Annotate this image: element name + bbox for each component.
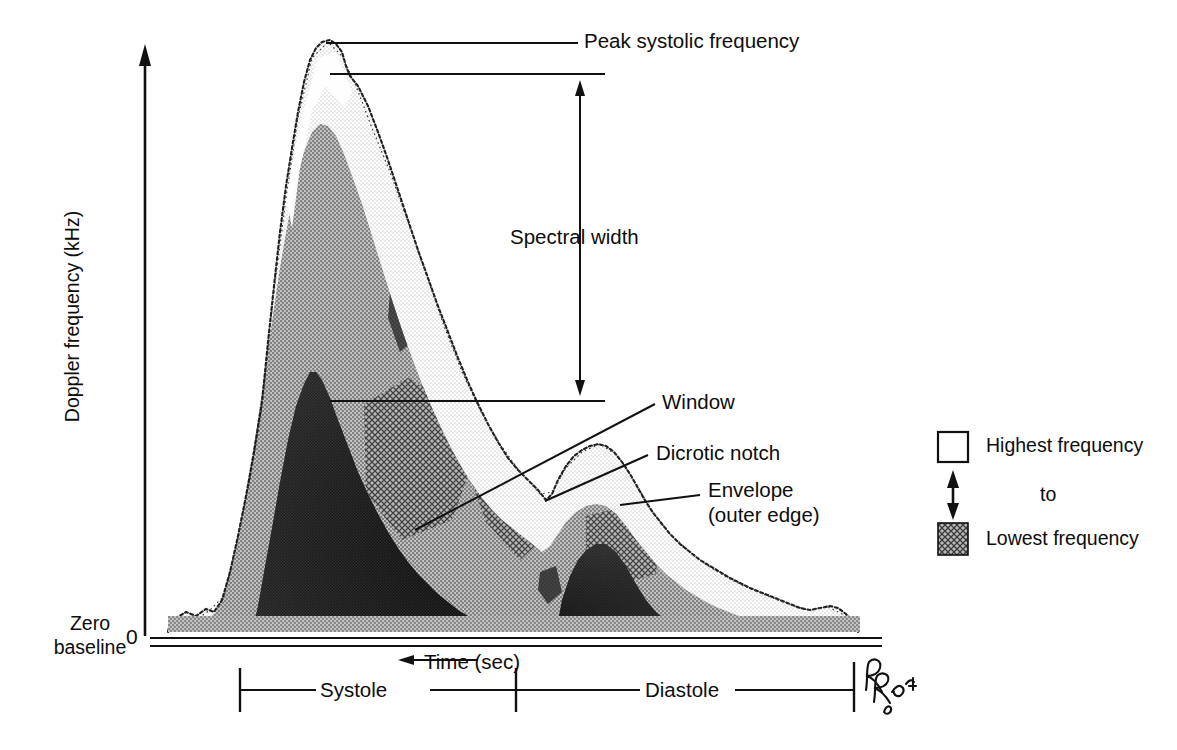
spectral-width-arrow-down	[575, 380, 585, 396]
mid-frequency-band	[150, 20, 890, 640]
zero-baseline-line1: Zero	[70, 612, 110, 634]
callout-window: Window	[662, 390, 735, 414]
legend-low-swatch	[938, 523, 968, 555]
baseline-skirt	[168, 616, 860, 632]
callout-envelope-line2: (outer edge)	[708, 503, 820, 527]
callout-dicrotic-notch: Dicrotic notch	[656, 441, 780, 465]
legend-arrow-up	[947, 470, 959, 488]
legend-arrow-down	[947, 503, 959, 520]
callout-peak-systolic-frequency: Peak systolic frequency	[584, 29, 799, 53]
waveform-canvas	[0, 0, 1177, 750]
callout-spectral-width: Spectral width	[510, 225, 639, 249]
legend-high-swatch	[938, 432, 968, 462]
zero-tick-label: 0	[126, 625, 138, 649]
legend-marks	[938, 432, 968, 555]
artist-signature	[866, 660, 916, 714]
legend-highest-frequency-label: Highest frequency	[986, 434, 1143, 457]
y-axis-label: Doppler frequency (kHz)	[61, 187, 84, 447]
phase-label-diastole: Diastole	[645, 678, 719, 702]
x-axis-label: Time (sec)	[424, 650, 520, 674]
zero-baseline-line2: baseline	[54, 636, 127, 658]
spectral-waveform	[150, 20, 890, 640]
legend-lowest-frequency-label: Lowest frequency	[986, 527, 1139, 550]
spectral-width-arrow-up	[575, 80, 585, 96]
y-axis-arrowhead	[139, 44, 151, 66]
doppler-spectral-figure: Doppler frequency (kHz) Zero baseline 0 …	[0, 0, 1177, 750]
callout-envelope-line1: Envelope	[708, 478, 793, 502]
zero-baseline-label: Zero baseline	[42, 612, 138, 660]
legend-to-label: to	[1040, 483, 1056, 506]
phase-label-systole: Systole	[320, 678, 387, 702]
